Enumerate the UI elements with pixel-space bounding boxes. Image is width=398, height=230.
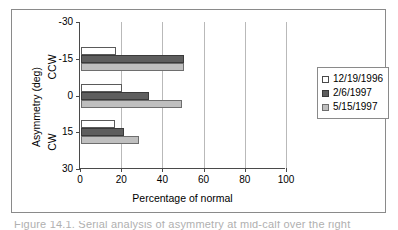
y-tick--15 — [76, 59, 80, 60]
bar-2-6-1997-cat--15 — [81, 55, 184, 63]
x-axis-title: Percentage of normal — [80, 192, 285, 204]
x-tick-40 — [162, 168, 163, 172]
x-tick-label-60: 60 — [198, 175, 209, 185]
y-axis-direction-ccw: CCW — [45, 47, 59, 87]
x-tick-20 — [121, 168, 122, 172]
y-tick-label-30: 30 — [62, 164, 73, 174]
y-axis-title: Asymmetry (deg) — [29, 52, 43, 162]
x-tick-0 — [80, 168, 81, 172]
y-tick-label-15: 15 — [62, 127, 73, 137]
x-tick-60 — [204, 168, 205, 172]
y-tick--30 — [76, 22, 80, 23]
legend-swatch-dark-gray — [322, 90, 329, 97]
y-axis-direction-ccw-text: CCW — [46, 54, 58, 79]
bar-5-15-1997-cat-15 — [81, 136, 139, 144]
x-axis-title-text: Percentage of normal — [132, 192, 232, 204]
y-tick-15 — [76, 132, 80, 133]
x-tick-label-20: 20 — [116, 175, 127, 185]
legend-item-label-2: 2/6/1997 — [333, 88, 372, 98]
legend-item-label-1: 12/19/1996 — [333, 74, 383, 84]
bar-5-15-1997-cat--15 — [81, 63, 184, 71]
x-tick-label-40: 40 — [157, 175, 168, 185]
bar-12-19-1996-cat-0 — [81, 84, 122, 92]
y-tick-0 — [76, 96, 80, 97]
chart-legend: 12/19/19962/6/19975/15/1997 — [317, 67, 389, 119]
legend-item-1[interactable]: 12/19/1996 — [322, 72, 383, 86]
x-tick-100 — [286, 168, 287, 172]
legend-swatch-light-gray — [322, 104, 329, 111]
bar-5-15-1997-cat-0 — [81, 100, 182, 108]
legend-item-2[interactable]: 2/6/1997 — [322, 86, 383, 100]
gridline-x-60 — [204, 22, 205, 168]
legend-swatch-white — [322, 76, 329, 83]
bar-2-6-1997-cat-0 — [81, 92, 149, 100]
bar-12-19-1996-cat-15 — [81, 120, 115, 128]
y-tick-label--30: -30 — [59, 17, 73, 27]
y-tick-label-0: 0 — [67, 91, 73, 101]
x-tick-label-100: 100 — [278, 175, 295, 185]
legend-item-label-3: 5/15/1997 — [333, 102, 378, 112]
y-axis-direction-cw: CW — [45, 122, 59, 162]
figure-caption-text: Figure 14.1. Serial analysis of asymmetr… — [14, 221, 384, 230]
x-tick-label-0: 0 — [77, 175, 83, 185]
figure-caption-clipped: Figure 14.1. Serial analysis of asymmetr… — [14, 221, 384, 230]
bar-2-6-1997-cat-15 — [81, 128, 124, 136]
gridline-x-40 — [162, 22, 163, 168]
bar-12-19-1996-cat--15 — [81, 47, 116, 55]
x-tick-label-80: 80 — [239, 175, 250, 185]
legend-item-3[interactable]: 5/15/1997 — [322, 100, 383, 114]
plot-area: -30-1501530 020406080100 Percentage of n… — [79, 22, 285, 169]
chart-frame: Asymmetry (deg) CCW CW -30-1501530 02040… — [11, 9, 386, 213]
gridline-x-80 — [245, 22, 246, 168]
y-axis-title-text: Asymmetry (deg) — [30, 67, 42, 147]
y-tick-label--15: -15 — [59, 54, 73, 64]
x-tick-80 — [245, 168, 246, 172]
y-axis-direction-cw-text: CW — [46, 133, 58, 151]
gridline-x-100 — [286, 22, 287, 168]
